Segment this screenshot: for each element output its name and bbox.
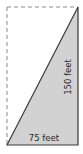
triangle-diagram: 75 feet 150 feet bbox=[0, 0, 83, 154]
height-length-label: 150 feet bbox=[63, 58, 73, 94]
base-length-label: 75 feet bbox=[29, 133, 60, 143]
